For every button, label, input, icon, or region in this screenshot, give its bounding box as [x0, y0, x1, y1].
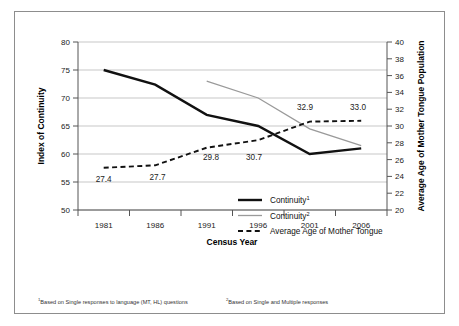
left-tick-label-80: 80 [61, 38, 70, 47]
footnote-1-text: Based on Single responses to language (M… [40, 299, 188, 305]
legend-label-average-age: Average Age of Mother Tongue [270, 227, 383, 236]
legend-label-continuity-2-sup: 2 [306, 211, 309, 217]
legend-label-continuity-2: Continuity2 [270, 211, 310, 221]
right-tick-label-24: 24 [395, 172, 404, 181]
right-tick-label-40: 40 [395, 38, 404, 47]
right-tick-label-22: 22 [395, 189, 404, 198]
gridlines [78, 42, 387, 210]
footnote-1: 1Based on Single responses to language (… [38, 297, 188, 305]
data-label-33-0: 33.0 [350, 103, 366, 112]
right-tick-label-38: 38 [395, 55, 404, 64]
data-label-29-8: 29.8 [203, 153, 219, 162]
footnotes: 1Based on Single responses to language (… [38, 297, 328, 305]
legend-label-continuity-1-text: Continuity [270, 196, 307, 205]
legend-label-continuity-1: Continuity1 [270, 195, 310, 205]
legend-label-continuity-1-sup: 1 [306, 195, 309, 201]
left-tick-label-65: 65 [61, 122, 70, 131]
data-label-32-9: 32.9 [297, 103, 313, 112]
bottom-axis-title: Census Year [207, 237, 259, 247]
left-tick-label-60: 60 [61, 150, 70, 159]
right-tick-label-26: 26 [395, 156, 404, 165]
data-label-30-7: 30.7 [246, 153, 262, 162]
series-average-age-line [104, 121, 362, 168]
left-tick-label-50: 50 [61, 206, 70, 215]
bottom-axis [78, 210, 387, 216]
left-axis-title: Index of Continuity [36, 87, 46, 164]
right-axis-title: Average Age of Mother Tongue Population [416, 40, 426, 211]
right-tick-label-34: 34 [395, 88, 404, 97]
right-tick-label-30: 30 [395, 122, 404, 131]
bottom-tick-label-1986: 1986 [146, 221, 164, 230]
bottom-tick-label-1996: 1996 [249, 221, 267, 230]
left-tick-label-75: 75 [61, 66, 70, 75]
right-tick-label-32: 32 [395, 105, 404, 114]
right-tick-label-28: 28 [395, 139, 404, 148]
chart-figure: 80 75 70 65 60 55 50 Index of Continuity… [0, 0, 459, 326]
left-tick-label-55: 55 [61, 178, 70, 187]
right-tick-label-20: 20 [395, 206, 404, 215]
bottom-tick-label-1991: 1991 [198, 221, 216, 230]
series-continuity-2-line [207, 81, 362, 145]
line-chart-canvas: 80 75 70 65 60 55 50 Index of Continuity… [0, 0, 459, 326]
right-tick-labels: 40 38 36 34 32 30 28 26 24 22 20 [395, 38, 404, 215]
bottom-tick-label-1981: 1981 [95, 221, 113, 230]
right-tick-label-36: 36 [395, 72, 404, 81]
right-axis [387, 42, 392, 210]
data-label-27-7: 27.7 [150, 173, 166, 182]
left-tick-labels: 80 75 70 65 60 55 50 [61, 38, 70, 215]
footnote-2: 2Based on Single and Multiple responses [226, 297, 328, 305]
data-label-27-4: 27.4 [96, 175, 112, 184]
legend-label-continuity-2-text: Continuity [270, 212, 307, 221]
left-tick-label-70: 70 [61, 94, 70, 103]
series-continuity-1-line [104, 70, 362, 154]
footnote-2-text: Based on Single and Multiple responses [228, 299, 328, 305]
left-axis [73, 42, 78, 210]
